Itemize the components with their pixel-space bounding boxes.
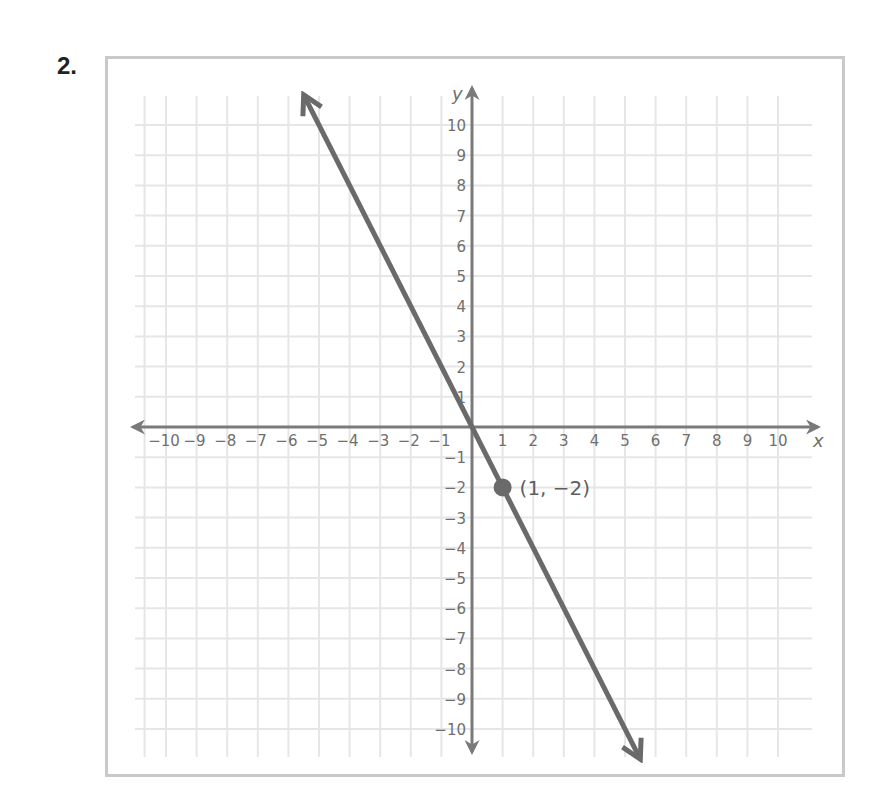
y-tick-label: 4 <box>456 298 466 316</box>
x-tick-label: −1 <box>428 432 450 450</box>
y-tick-label: 8 <box>456 177 466 195</box>
y-tick-label: −9 <box>444 691 466 709</box>
x-tick-label: 6 <box>651 432 661 450</box>
point-label: (1, −2) <box>520 476 591 500</box>
y-tick-label: −4 <box>444 540 466 558</box>
y-tick-label: −8 <box>444 661 466 679</box>
y-tick-label: −1 <box>444 449 466 467</box>
y-axis-label: y <box>451 83 463 104</box>
x-tick-label: −8 <box>214 432 236 450</box>
y-tick-label: −2 <box>444 479 466 497</box>
x-tick-label: −10 <box>148 432 180 450</box>
x-tick-label: 8 <box>712 432 722 450</box>
y-tick-label: −6 <box>444 600 466 618</box>
y-tick-label: 9 <box>456 147 466 165</box>
x-tick-label: −6 <box>275 432 297 450</box>
y-tick-label: 3 <box>456 328 466 346</box>
point-marker <box>494 478 512 496</box>
x-tick-label: 3 <box>559 432 569 450</box>
x-tick-label: −2 <box>398 432 420 450</box>
x-tick-label: −5 <box>306 432 328 450</box>
y-tick-label: −5 <box>444 570 466 588</box>
coordinate-plane: xy−10−9−8−7−6−5−4−3−2−112345678910109876… <box>0 0 887 803</box>
x-tick-label: 4 <box>590 432 600 450</box>
y-tick-label: −10 <box>434 721 466 739</box>
y-tick-label: −3 <box>444 510 466 528</box>
y-tick-label: 10 <box>447 117 466 135</box>
y-tick-label: −7 <box>444 630 466 648</box>
y-tick-label: 2 <box>456 359 466 377</box>
x-tick-label: −3 <box>367 432 389 450</box>
x-tick-label: −7 <box>245 432 267 450</box>
x-axis-label: x <box>812 430 824 451</box>
y-tick-label: 6 <box>456 238 466 256</box>
y-tick-label: 5 <box>456 268 466 286</box>
x-tick-label: 5 <box>620 432 630 450</box>
x-tick-label: −9 <box>184 432 206 450</box>
x-tick-label: 7 <box>681 432 691 450</box>
y-tick-label: 7 <box>456 208 466 226</box>
x-tick-label: 9 <box>743 432 753 450</box>
x-tick-label: 2 <box>528 432 538 450</box>
x-tick-label: 1 <box>498 432 508 450</box>
x-tick-label: −4 <box>337 432 359 450</box>
x-tick-label: 10 <box>768 432 787 450</box>
